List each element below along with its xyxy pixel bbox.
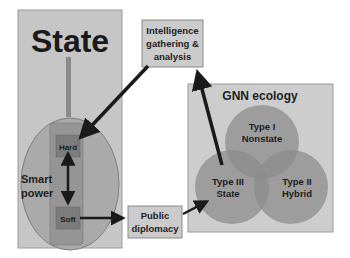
gnn-title: GNN ecology	[222, 89, 298, 103]
hard-label: Hard	[59, 143, 77, 152]
type3-label-1: Type III	[212, 176, 244, 187]
public-diplomacy-line-2: diplomacy	[132, 223, 180, 234]
diagram-canvas: State Smart power Hard Soft Intelligence…	[0, 0, 350, 258]
soft-label: Soft	[60, 215, 76, 224]
type2-label-2: Hybrid	[282, 188, 312, 199]
intelligence-box: Intelligence gathering & analysis	[142, 20, 203, 67]
type2-label-1: Type II	[282, 176, 311, 187]
type1-label-1: Type I	[249, 121, 276, 132]
state-connector-line	[66, 57, 71, 117]
smart-power-label-1: Smart	[21, 173, 53, 185]
intelligence-line-3: analysis	[154, 51, 192, 62]
public-diplomacy-line-1: Public	[141, 210, 170, 221]
gnn-ecology-box: GNN ecology Type I Nonstate Type III Sta…	[188, 84, 333, 232]
type3-label-2: State	[216, 188, 239, 199]
public-diplomacy-box: Public diplomacy	[128, 206, 182, 238]
smart-power-label-2: power	[21, 187, 54, 199]
intelligence-line-1: Intelligence	[146, 25, 198, 36]
intelligence-line-2: gathering &	[146, 38, 199, 49]
type2-circle	[254, 150, 328, 224]
state-title: State	[31, 23, 109, 59]
soft-power-box: Soft	[56, 207, 80, 229]
type1-label-2: Nonstate	[242, 133, 283, 144]
hard-power-box: Hard	[56, 135, 80, 157]
